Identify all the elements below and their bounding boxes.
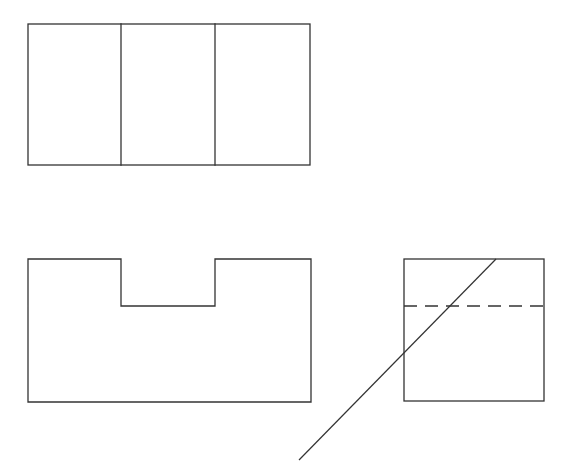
top-view-outline — [28, 24, 310, 165]
side-view-outline — [404, 259, 544, 401]
side-view — [404, 259, 544, 401]
front-view-outline — [28, 259, 311, 402]
front-view — [28, 259, 311, 402]
miter-line — [299, 259, 496, 460]
technical-drawing — [0, 0, 567, 471]
top-view — [28, 24, 310, 165]
